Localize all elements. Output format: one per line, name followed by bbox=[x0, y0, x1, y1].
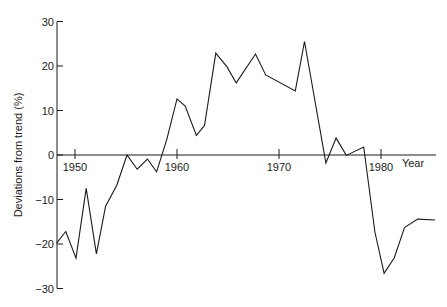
y-tick-label: 0 bbox=[48, 149, 54, 161]
data-line bbox=[57, 42, 436, 274]
line-chart: 3020100−10−20−30 1950196019701980 Deviat… bbox=[0, 0, 447, 307]
x-tick-label: 1950 bbox=[63, 161, 87, 173]
y-tick-label: −10 bbox=[35, 194, 54, 206]
x-axis: 1950196019701980 bbox=[57, 149, 436, 173]
x-tick-label: 1980 bbox=[369, 161, 393, 173]
y-tick-label: 10 bbox=[42, 105, 54, 117]
x-tick-label: 1960 bbox=[165, 161, 189, 173]
y-axis-title: Deviations from trend (%) bbox=[12, 93, 24, 218]
x-axis-title: Year bbox=[402, 157, 425, 169]
y-tick-label: −20 bbox=[35, 238, 54, 250]
y-tick-label: 20 bbox=[42, 60, 54, 72]
y-tick-label: −30 bbox=[35, 283, 54, 295]
x-tick-label: 1970 bbox=[267, 161, 291, 173]
y-tick-label: 30 bbox=[42, 16, 54, 28]
